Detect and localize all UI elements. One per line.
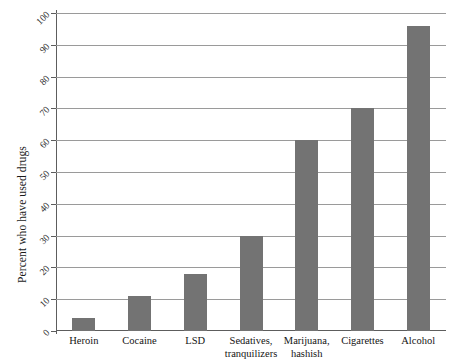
bar — [351, 108, 374, 331]
y-axis-tick-mark — [51, 77, 56, 78]
x-axis-category-label: Alcohol — [390, 335, 446, 348]
gridline — [56, 45, 446, 46]
y-axis-tick-label: 0 — [20, 327, 51, 358]
y-axis-tick-mark — [51, 236, 56, 237]
y-axis-tick-mark — [51, 267, 56, 268]
y-axis-tick-mark — [51, 108, 56, 109]
gridline — [56, 140, 446, 141]
bar — [240, 236, 263, 331]
bar — [295, 140, 318, 331]
x-axis-category-label: Marijuana, hashish — [279, 335, 335, 360]
bar — [184, 274, 207, 331]
x-axis-category-label: Cigarettes — [335, 335, 391, 348]
y-axis-tick-mark — [51, 45, 56, 46]
x-axis-category-label: LSD — [167, 335, 223, 348]
gridline — [56, 77, 446, 78]
bar — [128, 296, 151, 331]
x-axis-category-label: Sedatives, tranquilizers — [223, 335, 279, 360]
gridline — [56, 13, 446, 14]
y-axis-tick-mark — [51, 172, 56, 173]
x-axis-category-label: Cocaine — [112, 335, 168, 348]
gridline — [56, 172, 446, 173]
bar — [407, 26, 430, 331]
y-axis-tick-mark — [51, 299, 56, 300]
gridline — [56, 204, 446, 205]
y-axis-tick-mark — [51, 204, 56, 205]
plot-area — [56, 13, 446, 331]
x-axis-category-label: Heroin — [56, 335, 112, 348]
gridline — [56, 108, 446, 109]
bar-chart: Percent who have used drugs 010203040506… — [0, 0, 454, 364]
y-axis-tick-label: 10 — [20, 296, 51, 327]
bar — [72, 318, 95, 331]
y-axis-tick-mark — [51, 331, 56, 332]
y-axis-tick-mark — [51, 13, 56, 14]
y-axis-tick-mark — [51, 140, 56, 141]
